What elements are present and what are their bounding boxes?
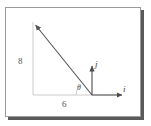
horizontal-leg-label: 6 xyxy=(62,100,67,109)
figure-root: 8 6 θ i j xyxy=(0,0,151,126)
vertical-leg-label: 8 xyxy=(18,57,23,66)
unit-vector-j-label: j xyxy=(95,60,98,69)
unit-vector-i-label: i xyxy=(123,85,126,94)
resultant-vector-arrow xyxy=(36,25,93,95)
angle-label: θ xyxy=(77,84,81,92)
